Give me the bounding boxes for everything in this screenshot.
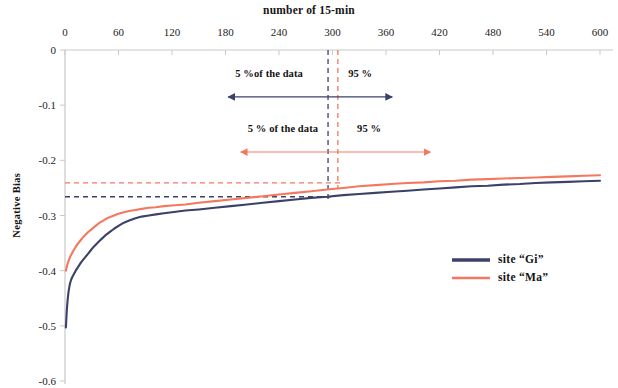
chart-plot-area <box>0 0 618 388</box>
chart-figure: number of 15-min Negative Bias 060120180… <box>0 0 618 388</box>
series-line-ma <box>66 175 600 270</box>
chart-annotation-arrows <box>228 97 430 152</box>
legend-swatches <box>452 260 490 278</box>
chart-series-lines <box>66 175 600 327</box>
series-line-gi <box>66 181 600 328</box>
chart-reference-lines <box>65 50 341 199</box>
